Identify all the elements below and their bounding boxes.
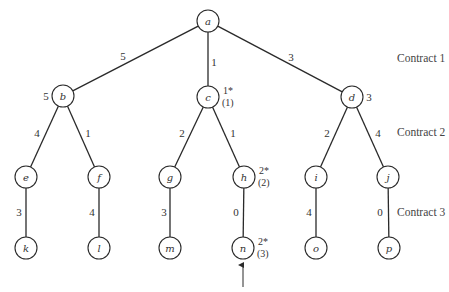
- node-annotation-bottom-c: (1): [222, 97, 234, 109]
- edge-weight-b-f: 1: [85, 127, 91, 139]
- edge-weight-d-j: 4: [375, 127, 381, 139]
- node-label: i: [314, 172, 317, 183]
- edge-weight-a-b: 5: [120, 50, 126, 62]
- edge-weight-f-l: 4: [89, 206, 95, 218]
- node-m: m: [159, 237, 181, 259]
- edge-j-p: [388, 188, 389, 237]
- edge-a-b: [73, 26, 198, 91]
- node-label: n: [240, 243, 246, 254]
- node-annotation-bottom-h: (2): [258, 177, 270, 189]
- node-label: c: [205, 92, 211, 103]
- node-label: h: [241, 172, 247, 183]
- node-label: l: [97, 243, 100, 254]
- node-annotation-bottom-n: (3): [257, 248, 269, 260]
- edge-weight-d-i: 2: [324, 127, 330, 139]
- node-j: j: [377, 166, 399, 188]
- node-e: e: [15, 166, 37, 188]
- node-label: k: [23, 243, 29, 254]
- node-label: b: [60, 91, 66, 102]
- node-f: f: [88, 166, 110, 188]
- edge-weight-labels: 513412124343040: [16, 50, 383, 218]
- node-label: o: [313, 243, 319, 254]
- node-h: h: [233, 166, 255, 188]
- edge-a-d: [218, 26, 343, 92]
- node-label: e: [23, 172, 29, 183]
- edge-weight-c-g: 2: [179, 127, 185, 139]
- node-l: l: [88, 237, 110, 259]
- edge-weight-h-n: 0: [233, 206, 239, 218]
- node-a: a: [197, 10, 219, 32]
- node-label: m: [165, 243, 174, 254]
- edge-weight-c-h: 1: [230, 127, 236, 139]
- node-label: p: [386, 243, 393, 254]
- node-n: n: [232, 237, 254, 259]
- node-o: o: [305, 237, 327, 259]
- edge-weight-a-d: 3: [288, 51, 294, 63]
- edge-weight-j-p: 0: [377, 206, 383, 218]
- edge-weight-e-k: 3: [16, 206, 22, 218]
- node-label: d: [349, 92, 355, 103]
- edge-weight-b-e: 4: [34, 127, 40, 139]
- node-k: k: [15, 237, 37, 259]
- node-annotation-top-h: 2*: [259, 165, 269, 176]
- node-label: a: [205, 16, 211, 27]
- node-d: d: [341, 86, 363, 108]
- node-value-b: 5: [43, 90, 49, 102]
- contract-level-2: Contract 2: [397, 126, 445, 138]
- node-i: i: [305, 166, 327, 188]
- edge-weight-a-c: 1: [211, 56, 217, 68]
- contract-level-1: Contract 1: [397, 52, 445, 64]
- node-value-d: 3: [366, 91, 372, 103]
- node-annotation-top-c: 1*: [223, 85, 233, 96]
- node-b: b: [52, 85, 74, 107]
- node-c: c: [197, 86, 219, 108]
- node-g: g: [159, 166, 181, 188]
- edge-h-n: [243, 188, 244, 237]
- contract-level-labels: Contract 1Contract 2Contract 3: [397, 52, 445, 218]
- edge-weight-i-o: 4: [306, 206, 312, 218]
- edge-weight-g-m: 3: [161, 206, 167, 218]
- contract-level-3: Contract 3: [397, 206, 445, 218]
- tree-diagram: 513412124343040 abcdefghijklmnop 51*(1)3…: [0, 0, 449, 292]
- node-p: p: [378, 237, 400, 259]
- node-label: g: [167, 172, 173, 183]
- node-annotation-top-n: 2*: [258, 236, 268, 247]
- edges: [26, 26, 389, 237]
